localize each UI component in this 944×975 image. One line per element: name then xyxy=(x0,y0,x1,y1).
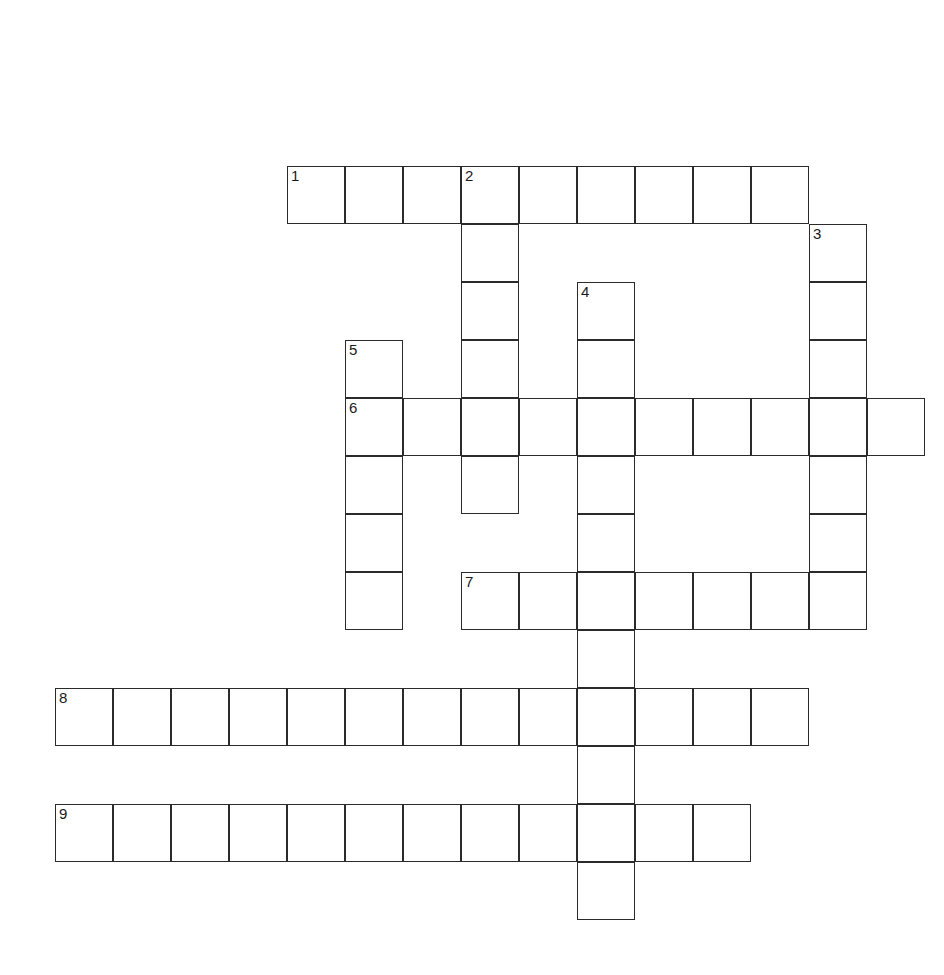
crossword-cell[interactable] xyxy=(345,804,403,862)
crossword-cell[interactable] xyxy=(809,456,867,514)
crossword-cell[interactable] xyxy=(577,398,635,456)
crossword-cell[interactable] xyxy=(519,166,577,224)
crossword-cell[interactable] xyxy=(577,340,635,398)
crossword-cell-numbered-6[interactable]: 6 xyxy=(345,398,403,456)
crossword-cell[interactable] xyxy=(461,456,519,514)
crossword-cell[interactable] xyxy=(751,688,809,746)
crossword-cell[interactable] xyxy=(403,804,461,862)
crossword-cell[interactable] xyxy=(809,572,867,630)
crossword-cell[interactable] xyxy=(751,166,809,224)
crossword-cell[interactable] xyxy=(577,166,635,224)
crossword-cell[interactable] xyxy=(635,572,693,630)
crossword-cell[interactable] xyxy=(577,514,635,572)
crossword-cell[interactable] xyxy=(113,804,171,862)
crossword-cell[interactable] xyxy=(809,340,867,398)
crossword-cell[interactable] xyxy=(751,572,809,630)
crossword-cell[interactable] xyxy=(635,804,693,862)
crossword-cell[interactable] xyxy=(693,804,751,862)
crossword-cell-numbered-8[interactable]: 8 xyxy=(55,688,113,746)
crossword-cell[interactable] xyxy=(461,340,519,398)
cell-number-2: 2 xyxy=(465,167,473,184)
crossword-cell[interactable] xyxy=(171,804,229,862)
crossword-cell[interactable] xyxy=(577,804,635,862)
cell-number-9: 9 xyxy=(59,805,67,822)
cell-number-5: 5 xyxy=(349,341,357,358)
crossword-cell[interactable] xyxy=(345,514,403,572)
crossword-cell[interactable] xyxy=(751,398,809,456)
crossword-cell[interactable] xyxy=(345,572,403,630)
cell-number-1: 1 xyxy=(291,167,299,184)
crossword-cell[interactable] xyxy=(519,572,577,630)
crossword-cell[interactable] xyxy=(809,398,867,456)
crossword-cell-numbered-1[interactable]: 1 xyxy=(287,166,345,224)
crossword-cell[interactable] xyxy=(461,688,519,746)
crossword-cell[interactable] xyxy=(693,572,751,630)
crossword-cell[interactable] xyxy=(519,688,577,746)
crossword-cell[interactable] xyxy=(809,282,867,340)
crossword-cell[interactable] xyxy=(693,688,751,746)
cell-number-7: 7 xyxy=(465,573,473,590)
crossword-cell[interactable] xyxy=(693,398,751,456)
crossword-cell[interactable] xyxy=(577,630,635,688)
crossword-puzzle: 123456789 xyxy=(0,0,944,975)
crossword-cell[interactable] xyxy=(461,804,519,862)
crossword-cell[interactable] xyxy=(403,166,461,224)
crossword-cell[interactable] xyxy=(403,688,461,746)
crossword-cell[interactable] xyxy=(635,398,693,456)
cell-number-3: 3 xyxy=(813,225,821,242)
crossword-cell-numbered-4[interactable]: 4 xyxy=(577,282,635,340)
crossword-cell[interactable] xyxy=(519,398,577,456)
crossword-cell[interactable] xyxy=(287,688,345,746)
crossword-cell[interactable] xyxy=(345,166,403,224)
crossword-cell[interactable] xyxy=(577,746,635,804)
crossword-cell-numbered-5[interactable]: 5 xyxy=(345,340,403,398)
crossword-cell[interactable] xyxy=(461,282,519,340)
crossword-cell[interactable] xyxy=(693,166,751,224)
crossword-cell-numbered-3[interactable]: 3 xyxy=(809,224,867,282)
crossword-cell[interactable] xyxy=(809,514,867,572)
crossword-cell[interactable] xyxy=(229,804,287,862)
crossword-cell[interactable] xyxy=(345,456,403,514)
crossword-grid[interactable]: 123456789 xyxy=(0,0,944,975)
crossword-cell[interactable] xyxy=(635,166,693,224)
crossword-cell[interactable] xyxy=(403,398,461,456)
crossword-cell-numbered-7[interactable]: 7 xyxy=(461,572,519,630)
crossword-cell-numbered-2[interactable]: 2 xyxy=(461,166,519,224)
crossword-cell[interactable] xyxy=(635,688,693,746)
crossword-cell-numbered-9[interactable]: 9 xyxy=(55,804,113,862)
crossword-cell[interactable] xyxy=(577,456,635,514)
crossword-cell[interactable] xyxy=(113,688,171,746)
crossword-cell[interactable] xyxy=(461,398,519,456)
crossword-cell[interactable] xyxy=(577,688,635,746)
crossword-cell[interactable] xyxy=(577,862,635,920)
crossword-cell[interactable] xyxy=(229,688,287,746)
crossword-cell[interactable] xyxy=(171,688,229,746)
crossword-cell[interactable] xyxy=(461,224,519,282)
cell-number-6: 6 xyxy=(349,399,357,416)
crossword-cell[interactable] xyxy=(287,804,345,862)
crossword-cell[interactable] xyxy=(577,572,635,630)
crossword-cell[interactable] xyxy=(345,688,403,746)
crossword-cell[interactable] xyxy=(867,398,925,456)
cell-number-8: 8 xyxy=(59,689,67,706)
crossword-cell[interactable] xyxy=(519,804,577,862)
cell-number-4: 4 xyxy=(581,283,589,300)
